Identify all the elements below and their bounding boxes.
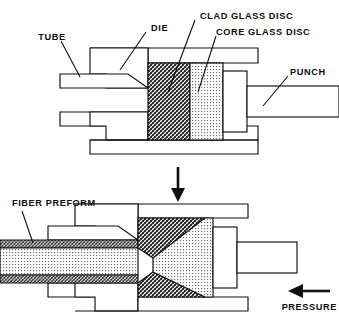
label-fiber-preform: FIBER PREFORM [12,198,96,208]
label-pressure: PRESSURE [282,302,337,312]
punch-head-lower [213,227,237,288]
label-clad-glass-disc: CLAD GLASS DISC [200,11,293,21]
core-glass-disc-upper [190,63,223,140]
punch-head-upper [223,71,247,132]
punch-shaft-lower [237,242,297,273]
fiber-preform-clad-top [0,240,138,248]
extrusion-process-diagram: TUBE DIE CLAD GLASS DISC CORE GLASS DISC… [0,0,339,323]
label-punch: PUNCH [290,67,326,77]
clad-glass-disc-upper [148,63,190,140]
fiber-preform-core [0,248,138,275]
fiber-preform-clad-bottom [0,275,138,283]
label-die: DIE [151,23,168,33]
label-core-glass-disc: CORE GLASS DISC [216,27,310,37]
figure-root: TUBE DIE CLAD GLASS DISC CORE GLASS DISC… [0,0,339,323]
label-tube: TUBE [38,32,65,42]
punch-shaft-upper [247,86,339,117]
